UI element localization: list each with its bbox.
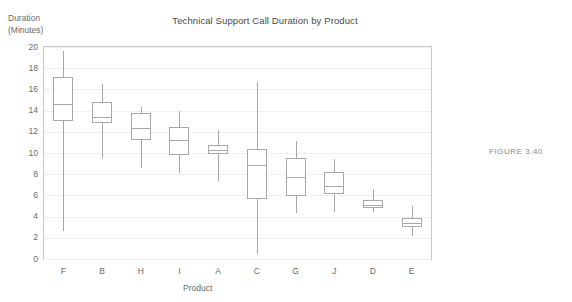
box-iqr xyxy=(363,200,383,208)
median-line xyxy=(402,223,422,224)
y-axis-tick-label: 6 xyxy=(12,191,38,200)
median-line xyxy=(247,165,267,166)
median-line xyxy=(131,128,151,129)
plot-area xyxy=(43,46,432,260)
median-line xyxy=(208,150,228,151)
y-axis-label-line2: (Minutes) xyxy=(8,24,43,36)
gridline xyxy=(44,174,431,175)
median-line xyxy=(169,140,189,141)
y-axis-tick-label: 0 xyxy=(12,255,38,264)
box-iqr xyxy=(324,172,344,194)
box-iqr xyxy=(131,113,151,141)
gridline xyxy=(44,238,431,239)
gridline xyxy=(44,217,431,218)
box-iqr xyxy=(53,77,73,122)
whisker-line xyxy=(218,130,219,181)
figure-container: Technical Support Call Duration by Produ… xyxy=(0,0,572,302)
y-axis-tick-label: 14 xyxy=(12,106,38,115)
gridline xyxy=(44,47,431,48)
median-line xyxy=(92,117,112,118)
x-axis-tick-label: D xyxy=(358,266,388,276)
x-axis-tick-label: A xyxy=(203,266,233,276)
median-line xyxy=(363,205,383,206)
y-axis-tick-label: 8 xyxy=(12,170,38,179)
y-axis-tick-label: 10 xyxy=(12,149,38,158)
box-iqr xyxy=(92,102,112,123)
gridline xyxy=(44,68,431,69)
x-axis-tick-label: E xyxy=(397,266,427,276)
x-axis-tick-label: J xyxy=(319,266,349,276)
y-axis-tick-label: 12 xyxy=(12,127,38,136)
gridline xyxy=(44,259,431,260)
x-axis-tick-label: C xyxy=(242,266,272,276)
x-axis-tick-label: F xyxy=(48,266,78,276)
y-axis-label: Duration (Minutes) xyxy=(8,12,43,36)
x-axis-tick-label: G xyxy=(281,266,311,276)
x-axis-tick-label: B xyxy=(87,266,117,276)
x-axis-tick-label: I xyxy=(164,266,194,276)
box-iqr xyxy=(247,149,267,199)
y-axis-label-line1: Duration xyxy=(8,12,43,24)
y-axis-tick-label: 4 xyxy=(12,212,38,221)
y-axis-tick-label: 2 xyxy=(12,233,38,242)
x-axis-tick-label: H xyxy=(126,266,156,276)
x-axis-label: Product xyxy=(183,283,212,293)
median-line xyxy=(286,177,306,178)
figure-caption: FIGURE 3.40 xyxy=(489,147,543,156)
median-line xyxy=(53,104,73,105)
y-axis-tick-label: 16 xyxy=(12,85,38,94)
chart-title: Technical Support Call Duration by Produ… xyxy=(120,15,410,26)
median-line xyxy=(324,186,344,187)
y-axis-tick-label: 18 xyxy=(12,64,38,73)
y-axis-tick-label: 20 xyxy=(12,43,38,52)
